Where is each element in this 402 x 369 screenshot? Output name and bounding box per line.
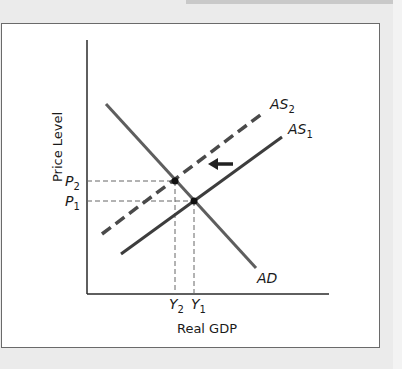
ad-label: AD xyxy=(256,270,278,286)
as-ad-diagram: AS2 AS1 AD P2 P1 Y2 Y1 Real GDP Price Le… xyxy=(0,0,402,369)
p2-label: P2 xyxy=(65,173,80,192)
ad-curve xyxy=(106,104,256,268)
equilibrium-e2 xyxy=(172,178,179,185)
y-axis-title: Price Level xyxy=(50,112,65,182)
y2-label: Y2 xyxy=(169,296,184,315)
as1-label: AS1 xyxy=(287,121,313,140)
y1-label: Y1 xyxy=(191,296,206,315)
as2-curve xyxy=(102,113,263,234)
as1-curve xyxy=(121,137,282,254)
p1-label: P1 xyxy=(65,193,80,212)
x-axis-title: Real GDP xyxy=(177,321,237,336)
shift-left-arrow-icon xyxy=(208,158,233,170)
as2-label: AS2 xyxy=(269,96,295,115)
equilibrium-e1 xyxy=(191,198,198,205)
